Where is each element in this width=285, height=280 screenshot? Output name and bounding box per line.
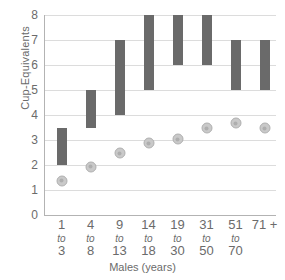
gridline [45,40,276,41]
range-bar [202,15,212,65]
x-label-line-1: 1 [57,218,65,233]
x-label-line-1: 19 [170,218,184,233]
x-label-line-3: 30 [170,244,184,259]
x-axis-tick-label: 14to18 [141,218,155,259]
y-axis-tick-label: 5 [31,84,38,96]
data-point-marker [56,175,67,186]
y-axis-tick: 0 [44,215,45,216]
x-axis-tick-label: 71 + [252,218,278,233]
y-axis-tick: 2 [44,165,45,166]
plot-area: 0123456781to34to89to1314to1819to3031to50… [44,15,276,216]
data-point-marker [259,123,270,134]
x-label-line-3: 18 [141,244,155,259]
x-axis-title: Males (years) [0,261,285,273]
y-axis-tick-label: 4 [31,109,38,121]
y-axis-tick: 4 [44,115,45,116]
x-label-line-3: 50 [199,244,213,259]
x-axis-line [44,215,276,216]
y-axis-tick-label: 6 [31,59,38,71]
range-bar [115,40,125,115]
gridline [45,90,276,91]
x-label-line-3: 3 [57,244,65,259]
chart-container: Cup-Equivalents 0123456781to34to89to1314… [0,0,285,280]
y-axis-tick-label: 2 [31,159,38,171]
range-bar [260,40,270,90]
range-bar [57,128,67,166]
y-axis-tick-label: 1 [31,184,38,196]
gridline [45,65,276,66]
y-axis-tick: 6 [44,65,45,66]
data-point-marker [114,148,125,159]
x-label-line-1: 51 [228,218,242,233]
x-label-line-1: 14 [141,218,155,233]
y-axis-tick-label: 7 [31,34,38,46]
gridline [45,15,276,16]
x-axis-tick-label: 51to70 [228,218,242,259]
x-label-line-3: 70 [228,244,242,259]
y-axis-tick-label: 0 [31,209,38,221]
data-point-marker [172,134,183,145]
gridline [45,115,276,116]
x-axis-tick-label: 19to30 [170,218,184,259]
range-bar [86,90,96,128]
gridline [45,140,276,141]
range-bar [173,15,183,65]
x-label-line-3: 13 [112,244,126,259]
gridline [45,165,276,166]
data-point-marker [143,138,154,149]
x-label-line-1: 9 [112,218,126,233]
x-label-line-1: 4 [86,218,94,233]
y-axis-tick-label: 3 [31,134,38,146]
y-axis-tick: 5 [44,90,45,91]
x-label-line-3: 8 [86,244,94,259]
y-axis-tick: 1 [44,190,45,191]
x-label-line-1: 31 [199,218,213,233]
gridline [45,190,276,191]
x-axis-tick-label: 31to50 [199,218,213,259]
x-label-line-1: 71 + [252,218,278,233]
range-bar [144,15,154,90]
y-axis-tick: 3 [44,140,45,141]
y-axis-tick: 8 [44,15,45,16]
x-axis-tick-label: 1to3 [57,218,65,259]
x-axis-tick-label: 9to13 [112,218,126,259]
y-axis-tick-label: 8 [31,9,38,21]
range-bar [231,40,241,90]
data-point-marker [230,118,241,129]
y-axis-tick: 7 [44,40,45,41]
data-point-marker [85,161,96,172]
data-point-marker [201,123,212,134]
x-axis-tick-label: 4to8 [86,218,94,259]
